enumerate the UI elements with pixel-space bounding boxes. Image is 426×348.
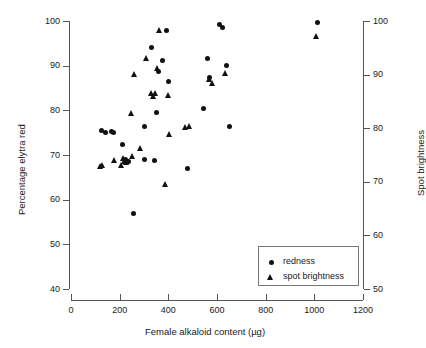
data-point-spot-brightness [156, 27, 162, 33]
data-point-spot-brightness [165, 92, 171, 98]
data-point-redness [120, 142, 125, 147]
data-point-redness [160, 58, 165, 63]
data-point-redness [149, 45, 154, 50]
y-axis-right-tick [364, 75, 370, 76]
y-axis-left-tick-label: 70 [28, 151, 60, 160]
y-axis-left-tick [63, 289, 69, 290]
y-axis-left-tick [63, 110, 69, 111]
x-axis-tick [363, 294, 364, 300]
triangle-icon [267, 274, 273, 280]
data-point-spot-brightness [143, 55, 149, 61]
data-point-redness [227, 124, 232, 129]
data-point-redness [154, 110, 159, 115]
x-axis-tick-label: 0 [51, 306, 91, 315]
data-point-redness [164, 28, 169, 33]
data-point-spot-brightness [123, 159, 129, 165]
data-point-redness [142, 157, 147, 162]
y-axis-right-tick [364, 128, 370, 129]
y-axis-left-tick-label: 80 [28, 106, 60, 115]
data-point-redness [152, 158, 157, 163]
x-axis-tick [266, 294, 267, 300]
data-point-spot-brightness [209, 80, 215, 86]
data-point-redness [201, 106, 206, 111]
x-axis-title: Female alkaloid content (µg) [145, 326, 265, 337]
data-point-redness [224, 63, 229, 68]
data-point-spot-brightness [111, 157, 117, 163]
data-point-spot-brightness [152, 90, 158, 96]
data-point-spot-brightness [99, 162, 105, 168]
y-axis-right-tick [364, 235, 370, 236]
data-point-spot-brightness [186, 123, 192, 129]
legend-item-redness: redness [259, 257, 360, 268]
y-axis-right-tick-label: 70 [373, 177, 403, 186]
y-axis-right-line [363, 21, 364, 289]
y-axis-right-tick-label: 90 [373, 70, 403, 79]
y-axis-left-tick [63, 200, 69, 201]
data-point-spot-brightness [154, 65, 160, 71]
y-axis-left-tick-label: 60 [28, 195, 60, 204]
data-point-spot-brightness [166, 131, 172, 137]
y-axis-right-tick [364, 182, 370, 183]
y-axis-left-tick [63, 21, 69, 22]
y-axis-right-tick-label: 100 [373, 17, 403, 26]
legend-item-spot-brightness: spot brightness [259, 272, 360, 283]
data-point-redness [111, 130, 116, 135]
x-axis-tick [168, 294, 169, 300]
data-point-spot-brightness [162, 181, 168, 187]
data-point-spot-brightness [131, 71, 137, 77]
x-axis-tick [217, 294, 218, 300]
data-point-redness [185, 166, 190, 171]
data-point-redness [220, 25, 225, 30]
y-axis-left-tick-label: 40 [28, 285, 60, 294]
y-axis-left-title: Percentage elytra red [16, 124, 27, 215]
x-axis-tick-label: 200 [100, 306, 140, 315]
legend-label-redness: redness [283, 257, 315, 266]
y-axis-right-tick [364, 289, 370, 290]
y-axis-right-tick [364, 21, 370, 22]
x-axis-tick-label: 400 [148, 306, 188, 315]
legend: redness spot brightness [258, 246, 359, 286]
x-axis-tick-label: 1000 [294, 306, 334, 315]
data-point-spot-brightness [128, 110, 134, 116]
data-point-spot-brightness [222, 70, 228, 76]
data-point-redness [315, 20, 320, 25]
data-point-redness [103, 130, 108, 135]
y-axis-left-tick-label: 90 [28, 61, 60, 70]
y-axis-left-tick [63, 155, 69, 156]
data-point-spot-brightness [129, 153, 135, 159]
scatter-plot: 405060708090100 5060708090100 0200400600… [0, 0, 426, 348]
data-point-redness [142, 124, 147, 129]
data-point-spot-brightness [313, 33, 319, 39]
y-axis-right-title: Spot brightness [415, 130, 426, 196]
y-axis-right-tick-label: 60 [373, 231, 403, 240]
data-point-spot-brightness [137, 145, 143, 151]
x-axis-tick [314, 294, 315, 300]
y-axis-left-tick [63, 244, 69, 245]
data-point-redness [166, 79, 171, 84]
data-point-redness [205, 56, 210, 61]
x-axis-line [71, 300, 363, 301]
y-axis-left-line [69, 21, 70, 289]
x-axis-tick [71, 294, 72, 300]
y-axis-right-tick-label: 50 [373, 285, 403, 294]
x-axis-tick [120, 294, 121, 300]
y-axis-left-tick [63, 66, 69, 67]
y-axis-left-tick-label: 50 [28, 240, 60, 249]
legend-label-spot-brightness: spot brightness [283, 272, 344, 281]
data-point-redness [131, 211, 136, 216]
y-axis-right-tick-label: 80 [373, 124, 403, 133]
x-axis-tick-label: 1200 [343, 306, 383, 315]
x-axis-tick-label: 800 [246, 306, 286, 315]
circle-icon [269, 260, 274, 265]
y-axis-left-tick-label: 100 [28, 17, 60, 26]
x-axis-tick-label: 600 [197, 306, 237, 315]
